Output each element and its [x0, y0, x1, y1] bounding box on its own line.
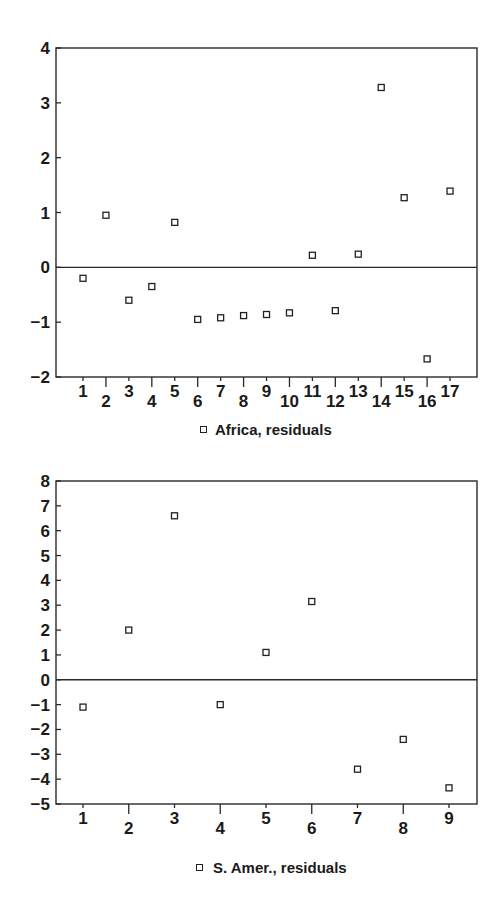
y-tick-label: 3	[41, 596, 50, 615]
x-tick-label: 7	[353, 809, 362, 828]
data-point	[218, 315, 224, 321]
x-tick-label: 8	[399, 819, 408, 838]
x-tick-label: 5	[261, 809, 270, 828]
y-tick-label: −4	[31, 770, 51, 789]
y-tick-label: 4	[41, 39, 51, 58]
x-tick-label: 6	[193, 392, 202, 411]
x-tick-label: 1	[78, 382, 87, 401]
y-tick-label: 4	[41, 571, 51, 590]
x-tick-label: 16	[418, 392, 437, 411]
legend-marker-icon	[196, 864, 203, 871]
x-tick-label: 3	[124, 382, 133, 401]
data-point	[195, 316, 201, 322]
y-tick-label: 0	[41, 258, 50, 277]
x-tick-label: 9	[262, 382, 271, 401]
south-america-residuals-chart: −5−4−3−2−1012345678123456789 S. Amer., r…	[0, 455, 500, 910]
data-point	[80, 275, 86, 281]
data-point	[401, 195, 407, 201]
africa-legend-label: Africa, residuals	[215, 421, 332, 438]
data-point	[447, 188, 453, 194]
south-america-legend-label: S. Amer., residuals	[213, 859, 347, 876]
data-point	[80, 704, 86, 710]
x-tick-label: 11	[303, 382, 321, 401]
y-tick-label: 2	[41, 621, 50, 640]
x-tick-label: 4	[216, 819, 226, 838]
plot-frame	[56, 481, 477, 804]
y-tick-label: −2	[31, 720, 50, 739]
y-tick-label: 2	[41, 149, 50, 168]
y-tick-label: −2	[31, 368, 50, 387]
x-tick-label: 15	[395, 382, 414, 401]
y-tick-label: 0	[41, 671, 50, 690]
data-point	[446, 785, 452, 791]
y-tick-label: −1	[31, 313, 50, 332]
data-point	[241, 313, 247, 319]
y-tick-label: 3	[41, 94, 50, 113]
data-point	[309, 599, 315, 605]
y-tick-label: 6	[41, 522, 50, 541]
x-tick-label: 10	[280, 392, 299, 411]
x-tick-label: 4	[147, 392, 157, 411]
x-tick-label: 5	[170, 382, 179, 401]
x-tick-label: 8	[239, 392, 248, 411]
y-tick-label: −5	[31, 795, 50, 814]
south-america-residuals-plot: −5−4−3−2−1012345678123456789	[0, 455, 500, 910]
x-tick-label: 13	[349, 382, 368, 401]
data-point	[309, 252, 315, 258]
x-tick-label: 12	[326, 392, 345, 411]
x-tick-label: 14	[372, 392, 391, 411]
x-tick-label: 3	[170, 809, 179, 828]
y-tick-label: −3	[31, 745, 50, 764]
data-point	[126, 627, 132, 633]
data-point	[217, 702, 223, 708]
data-point	[172, 513, 178, 519]
y-tick-label: 8	[41, 472, 50, 491]
y-tick-label: 1	[41, 204, 50, 223]
x-tick-label: 7	[216, 382, 225, 401]
x-tick-label: 2	[101, 392, 110, 411]
x-tick-label: 1	[78, 809, 87, 828]
data-point	[263, 649, 269, 655]
data-point	[126, 297, 132, 303]
data-point	[355, 251, 361, 257]
data-point	[332, 308, 338, 314]
y-tick-label: 1	[41, 646, 50, 665]
y-tick-label: −1	[31, 696, 50, 715]
data-point	[264, 311, 270, 317]
legend-marker-icon	[200, 426, 207, 433]
x-tick-label: 17	[441, 382, 460, 401]
data-point	[378, 84, 384, 90]
data-point	[103, 212, 109, 218]
plot-frame	[56, 48, 477, 377]
data-point	[149, 284, 155, 290]
x-tick-label: 9	[444, 809, 453, 828]
data-point	[172, 219, 178, 225]
africa-residuals-plot: −2−1012341234567891011121314151617	[0, 0, 500, 455]
data-point	[355, 766, 361, 772]
x-tick-label: 6	[307, 819, 316, 838]
data-point	[424, 356, 430, 362]
y-tick-label: 5	[41, 547, 50, 566]
data-point	[286, 310, 292, 316]
data-point	[400, 736, 406, 742]
africa-residuals-chart: −2−1012341234567891011121314151617 Afric…	[0, 0, 500, 455]
x-tick-label: 2	[124, 819, 133, 838]
y-tick-label: 7	[41, 497, 50, 516]
